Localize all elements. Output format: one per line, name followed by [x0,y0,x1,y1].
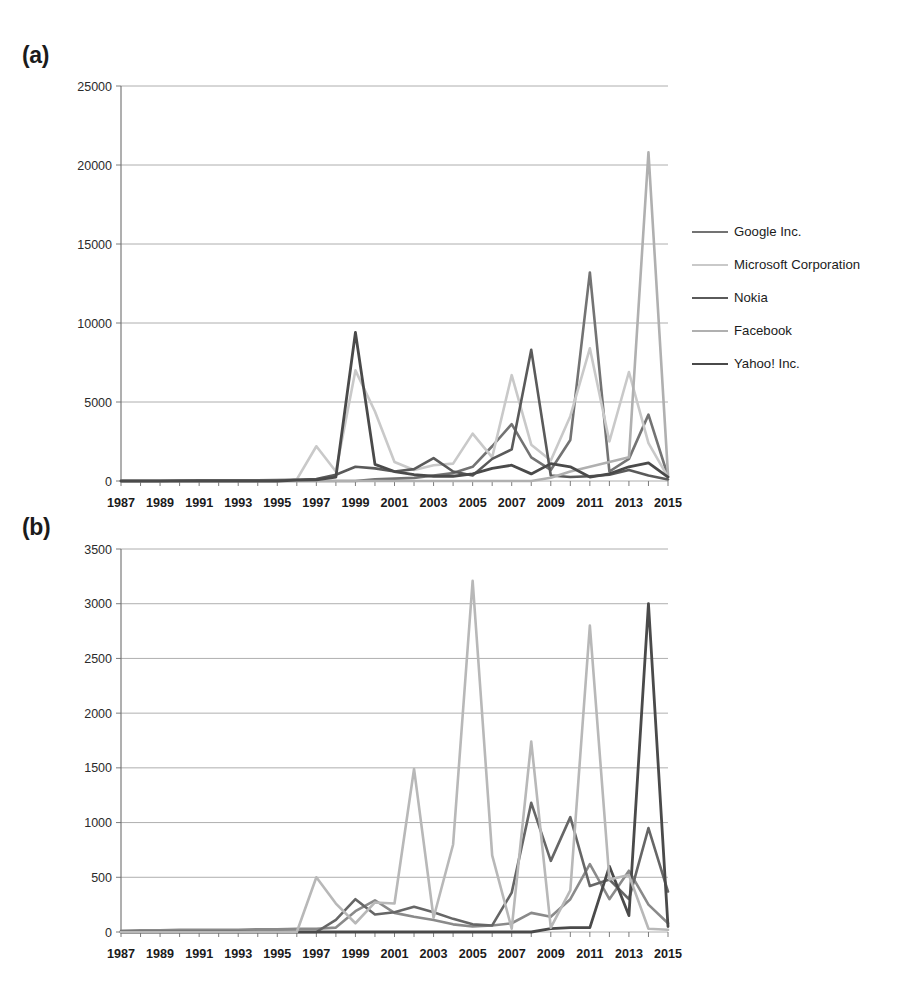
legend-item[interactable]: Nokia [692,291,860,305]
plot-area-a: 0500010000150002000025000198719891991199… [0,18,700,518]
legend-label: Yahoo! Inc. [734,357,800,370]
legend-item[interactable]: Microsoft Corporation [692,258,860,272]
y-axis-tick-label: 5000 [84,396,112,410]
chart-panel-a: (a) 050001000015000200002500019871989199… [0,18,909,498]
series-line-microsoft-corporation [121,348,668,481]
chart-svg-a: 0500010000150002000025000198719891991199… [0,18,700,518]
y-axis-tick-label: 2000 [84,707,112,721]
x-axis-tick-label: 1993 [224,947,252,961]
y-axis-tick-label: 10000 [77,317,112,331]
series-line-ebay-inc [121,581,668,932]
legend-color-swatch-icon [692,231,728,233]
series-line-google-inc [121,272,668,481]
legend-item[interactable]: Facebook [692,324,860,338]
x-axis-tick-label: 2011 [576,947,603,961]
x-axis-tick-label: 1997 [302,947,330,961]
plot-area-b: 0500100015002000250030003500198719891991… [0,498,700,978]
legend-item[interactable]: Yahoo! Inc. [692,357,860,371]
y-axis-tick-label: 1000 [84,816,112,830]
chart-panel-b: (b) 050010001500200025003000350019871989… [0,498,909,978]
x-axis-tick-label: 2015 [654,947,682,961]
y-axis-tick-label: 25000 [77,80,112,94]
y-axis-tick-label: 500 [91,871,112,885]
legend-color-swatch-icon [692,330,728,332]
x-axis-tick-label: 2001 [380,947,408,961]
x-axis-tick-label: 2007 [498,947,526,961]
x-axis-tick-label: 2005 [459,947,487,961]
x-axis-tick-label: 1991 [185,947,213,961]
x-axis-tick-label: 1989 [146,947,174,961]
figure-container: (a) 050001000015000200002500019871989199… [0,0,909,995]
y-axis-tick-label: 20000 [77,159,112,173]
y-axis-tick-label: 0 [105,475,112,489]
legend-label: Google Inc. [734,225,801,238]
y-axis-tick-label: 3000 [84,597,112,611]
x-axis-tick-label: 1999 [341,947,369,961]
legend-a: Google Inc.Microsoft CorporationNokiaFac… [692,225,860,390]
y-axis-tick-label: 15000 [77,238,112,252]
y-axis-tick-label: 0 [105,926,112,940]
x-axis-tick-label: 2009 [537,947,565,961]
x-axis-tick-label: 2013 [615,947,643,961]
legend-label: Microsoft Corporation [734,258,860,271]
legend-color-swatch-icon [692,264,728,266]
legend-item[interactable]: Google Inc. [692,225,860,239]
x-axis-tick-label: 1995 [263,947,291,961]
legend-color-swatch-icon [692,297,728,299]
x-axis-tick-label: 1987 [107,947,135,961]
legend-label: Facebook [734,324,792,337]
legend-label: Nokia [734,291,768,304]
x-axis-tick-label: 2003 [420,947,448,961]
y-axis-tick-label: 3500 [84,543,112,557]
chart-svg-b: 0500100015002000250030003500198719891991… [0,498,700,978]
y-axis-tick-label: 1500 [84,761,112,775]
y-axis-tick-label: 2500 [84,652,112,666]
legend-color-swatch-icon [692,363,728,365]
